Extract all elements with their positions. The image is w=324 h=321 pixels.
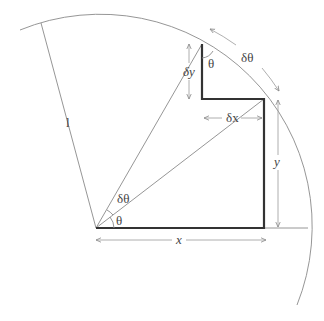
x-label: x — [175, 232, 182, 247]
theta-label-origin: θ — [116, 213, 122, 228]
theta-angle-arc — [110, 217, 114, 228]
dtheta-arc-arrow-lower — [262, 68, 279, 91]
y-label: y — [272, 154, 280, 169]
ray-lower — [96, 99, 264, 228]
dtheta-label-arc: δθ — [241, 50, 253, 65]
theta-label-corner: θ — [208, 56, 214, 71]
radius-label: l — [66, 115, 70, 130]
circle-arc — [20, 14, 312, 305]
dtheta-angle-arc — [107, 210, 113, 215]
dy-label: δy — [183, 64, 195, 79]
polar-diagram: l θ δθ θ δθ δx δy x y — [0, 0, 324, 321]
dtheta-arc-arrow-upper — [210, 29, 236, 45]
dx-label: δx — [226, 110, 239, 125]
dtheta-label-origin: δθ — [117, 191, 129, 206]
